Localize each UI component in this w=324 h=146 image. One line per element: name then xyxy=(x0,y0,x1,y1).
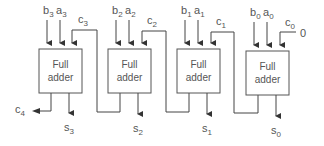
svg-text:Full: Full xyxy=(52,59,68,70)
svg-text:a0: a0 xyxy=(263,6,274,21)
adder-label-line1: Full xyxy=(121,59,137,70)
carry-out-arrow xyxy=(32,108,40,114)
svg-text:a3: a3 xyxy=(56,4,67,19)
svg-text:b3: b3 xyxy=(43,4,54,19)
carry-out-c4-wire xyxy=(39,93,51,111)
svg-text:Full: Full xyxy=(190,59,206,70)
svg-text:b0: b0 xyxy=(250,6,261,21)
full-adder-2: Full adder b2 a2 c2 s2 xyxy=(108,4,158,137)
svg-text:a2: a2 xyxy=(125,4,136,19)
full-adder-0: Full adder b0 a0 c0 0 s0 xyxy=(246,6,306,139)
adder-label-line1: Full xyxy=(52,59,68,70)
svg-text:Full: Full xyxy=(121,59,137,70)
svg-text:c3: c3 xyxy=(78,13,89,28)
svg-text:adder: adder xyxy=(255,74,281,85)
svg-text:s1: s1 xyxy=(202,122,213,137)
full-adder-1: Full adder b1 a1 c1 s1 xyxy=(177,4,227,137)
adder-label-line2: adder xyxy=(117,72,143,83)
adder-label-line1: Full xyxy=(190,59,206,70)
svg-text:c1: c1 xyxy=(216,15,227,30)
adder-label-line2: adder xyxy=(186,72,212,83)
svg-text:Full: Full xyxy=(259,61,275,72)
full-adder-3: Full adder b3 a3 c3 s3 c4 xyxy=(15,4,89,136)
svg-text:a1: a1 xyxy=(194,4,205,19)
svg-text:b1: b1 xyxy=(181,4,192,19)
carry-in-c0-wire xyxy=(280,32,296,45)
svg-text:s2: s2 xyxy=(133,122,144,137)
svg-text:adder: adder xyxy=(117,72,143,83)
svg-text:s0: s0 xyxy=(271,124,282,139)
svg-text:b2: b2 xyxy=(112,4,123,19)
adder-label-line1: Full xyxy=(259,61,275,72)
carry-in-value: 0 xyxy=(300,27,306,39)
svg-text:adder: adder xyxy=(186,72,212,83)
svg-text:c4: c4 xyxy=(15,103,26,118)
svg-text:adder: adder xyxy=(48,72,74,83)
adder-label-line2: adder xyxy=(255,74,281,85)
ripple-carry-adder-diagram: Full adder b3 a3 c3 s3 c4 Full adder b2 … xyxy=(0,0,324,146)
adder-box xyxy=(246,51,289,95)
svg-text:c0: c0 xyxy=(285,16,296,31)
adder-label-line2: adder xyxy=(48,72,74,83)
adder-box xyxy=(108,49,151,93)
adder-box xyxy=(177,49,220,93)
svg-text:s3: s3 xyxy=(64,121,75,136)
adder-box xyxy=(39,49,82,93)
svg-text:c2: c2 xyxy=(147,14,158,29)
